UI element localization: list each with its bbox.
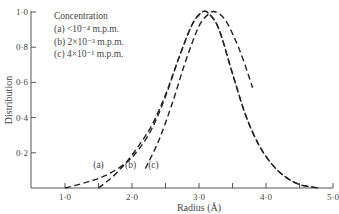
y-axis-title: Distribution <box>3 76 14 124</box>
distribution-chart: 0·20·40·60·81·01·02·03·04·05·0Radius (Å)… <box>0 0 339 214</box>
x-tick-label: 4·0 <box>260 192 272 202</box>
curve-label-b: (b) <box>125 160 136 171</box>
legend-entry: (a) <10⁻⁴ m.p.m. <box>54 24 119 35</box>
x-axis-title: Radius (Å) <box>177 202 221 214</box>
y-tick-label: 1·0 <box>16 7 28 17</box>
x-tick-label: 1·0 <box>59 192 71 202</box>
legend-entry: (b) 2×10⁻³ m.p.m. <box>54 37 124 48</box>
y-tick-label: 0·4 <box>16 113 28 123</box>
y-tick-label: 0·6 <box>16 77 28 87</box>
x-tick-label: 2·0 <box>126 192 138 202</box>
labels-group: (a)(b)(c) <box>93 160 158 171</box>
legend-entry: (c) 4×10⁻¹ m.p.m. <box>54 49 123 60</box>
x-tick-label: 3·0 <box>193 192 205 202</box>
legend-title: Concentration <box>54 11 108 21</box>
legend: Concentration(a) <10⁻⁴ m.p.m.(b) 2×10⁻³ … <box>54 11 124 60</box>
x-tick-label: 5·0 <box>327 192 339 202</box>
y-tick-label: 0·8 <box>16 42 28 52</box>
curve-label-c: (c) <box>148 160 159 171</box>
series-line-c <box>145 11 252 168</box>
y-tick-label: 0·2 <box>16 148 28 158</box>
curve-label-a: (a) <box>93 160 104 171</box>
